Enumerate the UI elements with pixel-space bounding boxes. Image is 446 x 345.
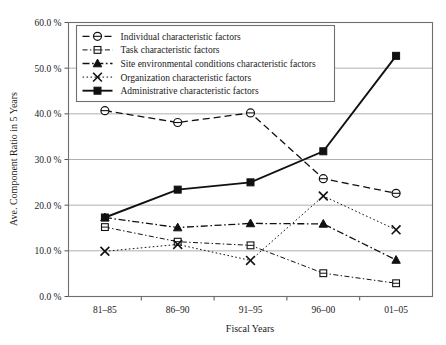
- x-tick-label: 91–95: [239, 305, 263, 315]
- data-point-square-open: [393, 280, 400, 287]
- x-tick-label: 96–00: [311, 305, 335, 315]
- data-point-circle-open: [94, 32, 102, 40]
- data-point-x-cross: [101, 247, 110, 256]
- y-tick-label: 0.0 %: [39, 292, 61, 302]
- data-point-square-filled: [247, 179, 254, 186]
- data-point-triangle-filled: [246, 219, 254, 227]
- x-axis-title: Fiscal Years: [226, 323, 274, 334]
- data-point-square-filled: [320, 148, 327, 155]
- chart-container: 0.0 %10.0 %20.0 %30.0 %40.0 %50.0 %60.0 …: [0, 0, 446, 345]
- data-point-square-filled: [174, 186, 181, 193]
- legend-label: Task characteristic factors: [121, 45, 220, 55]
- x-tick-label: 86–90: [166, 305, 190, 315]
- x-tick-labels: 81–8586–9091–9596–0001–05: [93, 305, 408, 315]
- line-chart: 0.0 %10.0 %20.0 %30.0 %40.0 %50.0 %60.0 …: [0, 0, 446, 345]
- y-tick-label: 30.0 %: [35, 155, 62, 165]
- data-point-square-open: [94, 47, 101, 54]
- data-point-square-open: [247, 242, 254, 249]
- data-point-circle-open: [392, 189, 400, 197]
- data-point-circle-open: [174, 119, 182, 127]
- data-point-square-filled: [94, 87, 101, 94]
- data-point-square-filled: [393, 52, 400, 59]
- data-point-circle-open: [319, 175, 327, 183]
- x-tick-label: 81–85: [93, 305, 117, 315]
- x-tick-label: 01–05: [384, 305, 408, 315]
- legend-label: Individual characteristic factors: [121, 32, 242, 42]
- y-tick-label: 50.0 %: [35, 64, 62, 74]
- x-tick-marks: [141, 297, 359, 301]
- y-tick-label: 20.0 %: [35, 201, 62, 211]
- y-tick-marks: [65, 23, 69, 297]
- y-tick-labels: 0.0 %10.0 %20.0 %30.0 %40.0 %50.0 %60.0 …: [35, 18, 62, 302]
- data-point-x-cross: [319, 192, 328, 201]
- data-point-circle-open: [247, 109, 255, 117]
- data-point-square-open: [320, 270, 327, 277]
- series-1: [102, 224, 400, 287]
- series-line: [105, 227, 396, 283]
- data-point-triangle-filled: [319, 219, 327, 227]
- y-tick-label: 60.0 %: [35, 18, 62, 28]
- data-point-square-open: [102, 224, 109, 231]
- y-tick-label: 10.0 %: [35, 246, 62, 256]
- series-2: [101, 213, 401, 263]
- data-point-x-cross: [246, 256, 255, 265]
- data-point-square-filled: [101, 214, 108, 221]
- data-point-triangle-filled: [392, 256, 400, 264]
- y-axis-title: Ave. Component Ratio in 5 Years: [8, 92, 19, 226]
- y-tick-label: 40.0 %: [35, 109, 62, 119]
- legend-label: Administrative characteristic factors: [121, 86, 260, 96]
- chart-legend: Individual characteristic factorsTask ch…: [77, 26, 335, 102]
- legend-label: Site environmental conditions characteri…: [121, 59, 317, 69]
- data-point-circle-open: [101, 107, 109, 115]
- legend-label: Organization characteristic factors: [121, 73, 252, 83]
- data-point-x-cross: [392, 225, 401, 234]
